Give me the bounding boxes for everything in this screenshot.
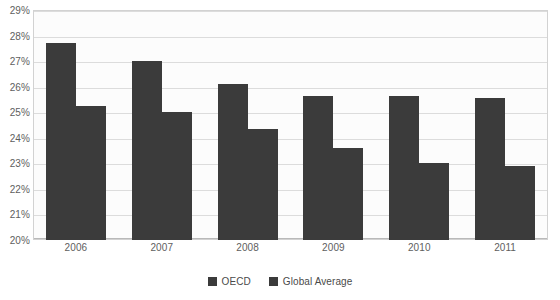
bar-2006-global-average[interactable] xyxy=(76,106,106,240)
bar-2008-global-average[interactable] xyxy=(248,129,278,240)
bar-2008-oecd[interactable] xyxy=(218,84,248,240)
bar-2009-global-average[interactable] xyxy=(333,148,363,240)
bar-2010-oecd[interactable] xyxy=(389,96,419,240)
bar-group xyxy=(46,10,106,240)
chart-legend: OECDGlobal Average xyxy=(0,276,560,287)
y-axis-tick-label: 24% xyxy=(10,132,30,143)
y-axis-tick-label: 28% xyxy=(10,30,30,41)
bar-group xyxy=(475,10,535,240)
x-axis-tick-label: 2007 xyxy=(150,242,173,253)
y-axis-tick-label: 20% xyxy=(10,235,30,246)
legend-swatch-icon xyxy=(269,277,278,286)
bar-group xyxy=(389,10,449,240)
legend-label: OECD xyxy=(222,276,251,287)
x-axis: 200620072008200920102011 xyxy=(33,242,548,262)
y-axis-tick-label: 23% xyxy=(10,158,30,169)
y-axis-tick-label: 27% xyxy=(10,56,30,67)
x-axis-tick-label: 2010 xyxy=(408,242,431,253)
y-axis-tick-label: 25% xyxy=(10,107,30,118)
legend-item-global-average[interactable]: Global Average xyxy=(269,276,353,287)
bar-group xyxy=(303,10,363,240)
bar-2010-global-average[interactable] xyxy=(419,163,449,240)
bar-2009-oecd[interactable] xyxy=(303,96,333,240)
bar-2007-global-average[interactable] xyxy=(162,112,192,240)
x-axis-tick-label: 2011 xyxy=(494,242,516,253)
bars-layer xyxy=(33,10,548,240)
y-axis-tick-label: 21% xyxy=(10,209,30,220)
legend-label: Global Average xyxy=(283,276,353,287)
y-axis-tick-label: 22% xyxy=(10,183,30,194)
bar-2006-oecd[interactable] xyxy=(46,43,76,240)
legend-item-oecd[interactable]: OECD xyxy=(208,276,251,287)
bar-chart: 20%21%22%23%24%25%26%27%28%29% 200620072… xyxy=(0,0,560,300)
x-axis-tick-label: 2008 xyxy=(236,242,259,253)
y-axis-tick-label: 29% xyxy=(10,5,30,16)
x-axis-tick-label: 2006 xyxy=(65,242,88,253)
y-axis-tick-label: 26% xyxy=(10,81,30,92)
legend-swatch-icon xyxy=(208,277,217,286)
bar-2011-oecd[interactable] xyxy=(475,98,505,240)
bar-group xyxy=(132,10,192,240)
x-axis-tick-label: 2009 xyxy=(322,242,345,253)
y-axis: 20%21%22%23%24%25%26%27%28%29% xyxy=(0,10,30,240)
bar-2007-oecd[interactable] xyxy=(132,61,162,240)
bar-group xyxy=(218,10,278,240)
bar-2011-global-average[interactable] xyxy=(505,166,535,240)
